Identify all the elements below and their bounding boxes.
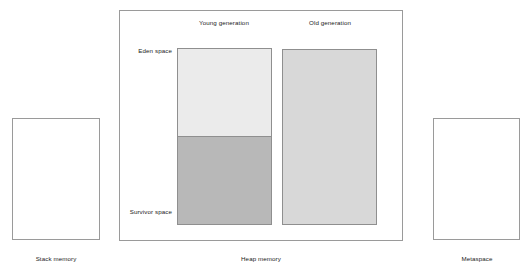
metaspace-label: Metaspace [461,256,492,262]
eden-space-label: Eden space [138,48,172,54]
heap-memory-label: Heap memory [241,256,281,262]
old-generation-column [282,49,377,225]
jvm-memory-diagram: Stack memory Young generation Old genera… [0,0,528,273]
survivor-space-label: Survivor space [130,209,172,215]
survivor-space-region [177,136,272,225]
stack-memory-label: Stack memory [36,256,77,262]
eden-space-region [177,48,272,136]
young-generation-column [177,48,272,225]
young-generation-label: Young generation [199,20,249,26]
metaspace-box [433,118,520,240]
stack-memory-box [12,118,100,240]
old-generation-label: Old generation [309,20,351,26]
